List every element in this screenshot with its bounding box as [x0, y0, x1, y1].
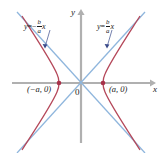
y-axis-label: y [71, 8, 75, 17]
asym-left-variable: x [42, 22, 46, 31]
asym-left-fraction: ba [37, 18, 42, 34]
right-leader-arrowhead [105, 44, 110, 49]
asym-left-numerator: b [37, 18, 42, 25]
x-axis-label: x [153, 85, 157, 94]
asym-right-numerator: b [106, 18, 111, 25]
positive-asymptote-equation-label: y=bax [97, 19, 114, 35]
asym-left-sign: − [32, 22, 37, 31]
hyperbola-figure: y x 0 (−a, 0) (a, 0) y=−bax y=bax [0, 0, 167, 153]
negative-asymptote-equation-label: y=−bax [24, 19, 46, 35]
right-vertex-label: (a, 0) [109, 85, 127, 94]
origin-label: 0 [75, 88, 80, 97]
left-leader-arrowhead [43, 44, 48, 49]
asym-right-variable: x [111, 22, 115, 31]
asym-right-fraction: ba [106, 18, 111, 34]
asym-right-denominator: a [106, 27, 111, 34]
asym-right-equals: = [101, 22, 106, 31]
left-vertex-dot [57, 81, 62, 86]
asym-left-denominator: a [37, 27, 42, 34]
left-vertex-label: (−a, 0) [27, 85, 51, 94]
y-axis-arrowhead [77, 9, 84, 15]
right-vertex-dot [101, 81, 106, 86]
